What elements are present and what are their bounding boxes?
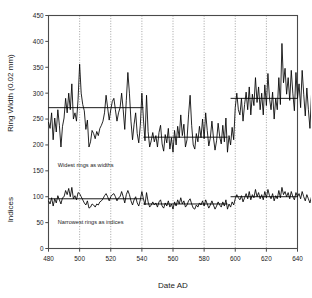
series-line-1 <box>49 187 312 209</box>
annotation-widest-rings: Widest rings as widths <box>58 162 114 168</box>
ytick-label-300: 300 <box>33 90 44 97</box>
ytick-label-400: 400 <box>33 38 44 45</box>
ring-width-indices-chart: 0501001502002503003504004504805005205405… <box>0 0 311 298</box>
x-axis-title: Date AD <box>158 281 188 290</box>
ytick-label-200: 200 <box>33 141 44 148</box>
ytick-label-0: 0 <box>40 245 44 252</box>
ytick-label-150: 150 <box>33 167 44 174</box>
xtick-label-480: 480 <box>43 255 54 262</box>
xtick-label-540: 540 <box>137 255 148 262</box>
ytick-label-250: 250 <box>33 115 44 122</box>
ytick-label-50: 50 <box>36 219 44 226</box>
xtick-label-520: 520 <box>105 255 116 262</box>
xtick-label-560: 560 <box>168 255 179 262</box>
ytick-label-350: 350 <box>33 64 44 71</box>
xtick-label-620: 620 <box>261 255 272 262</box>
y-axis-title-top: Ring Width (0.02 mm) <box>6 54 15 132</box>
xtick-label-600: 600 <box>230 255 241 262</box>
series-line-0 <box>49 43 312 152</box>
xtick-label-580: 580 <box>199 255 210 262</box>
chart-figure: 0501001502002503003504004504805005205405… <box>0 0 311 298</box>
ytick-label-100: 100 <box>33 193 44 200</box>
ytick-label-450: 450 <box>33 12 44 19</box>
xtick-label-640: 640 <box>292 255 303 262</box>
y-axis-title-bottom: Indices <box>6 197 15 222</box>
xtick-label-500: 500 <box>74 255 85 262</box>
annotation-narrowest-rings: Narrowest rings as indices <box>58 219 124 225</box>
